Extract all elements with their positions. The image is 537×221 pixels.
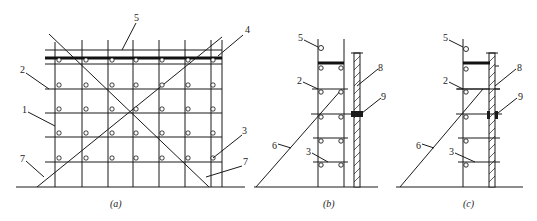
label-2: 2 [20,64,25,75]
label-7-left: 7 [20,153,25,164]
label-2: 2 [297,75,302,86]
caption-c: (c) [463,198,475,210]
label-9: 9 [518,91,523,102]
label-5: 5 [298,32,303,43]
label-1: 1 [22,104,27,115]
label-3: 3 [449,146,454,157]
panel-a-front-elevation: 5 4 2 1 3 7 7 (a) [16,12,250,210]
wall-tie [487,111,490,119]
label-3: 3 [306,146,311,157]
transom-couplers [57,58,215,160]
label-3: 3 [242,125,247,136]
wall-tie [351,111,363,117]
wall-tie-anchor [495,111,498,119]
caption-b: (b) [323,198,335,210]
label-5: 5 [134,12,139,23]
label-8: 8 [517,62,522,73]
label-2: 2 [443,75,448,86]
building-wall [486,53,498,187]
panel-c-single-row-section: 5 2 8 9 6 3 (c) [396,32,523,210]
label-5: 5 [443,32,448,43]
building-wall [351,53,363,187]
label-6: 6 [272,140,277,151]
label-6: 6 [416,140,421,151]
label-8: 8 [378,62,383,73]
label-7-right: 7 [243,156,248,167]
panel-b-double-row-section: 5 2 8 9 6 3 (b) [254,32,386,210]
label-9: 9 [381,91,386,102]
label-4: 4 [245,24,250,35]
caption-a: (a) [110,198,122,210]
scaffold-diagram: 5 4 2 1 3 7 7 (a) [0,0,537,221]
